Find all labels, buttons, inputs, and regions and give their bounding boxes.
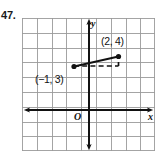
problem-number: 47. [1,9,16,21]
x-axis-label: x [148,111,153,122]
figure-container: 47. [0,0,164,158]
line-segment [74,57,119,67]
y-axis-label: y [91,18,95,29]
point-minus1-3 [71,64,76,69]
point-2-4 [116,54,121,59]
point-label-2-4: (2, 4) [101,35,124,47]
point-label-minus1-3: (−1, 3) [35,73,64,85]
origin-label: O [74,111,81,122]
